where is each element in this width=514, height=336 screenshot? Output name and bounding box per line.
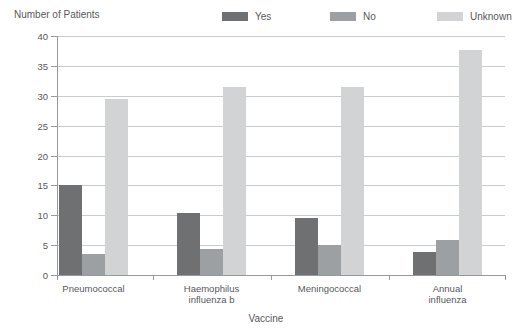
y-tick-label-10: 10 <box>26 210 48 221</box>
legend-swatch-unknown <box>437 12 463 21</box>
bar-unknown-3 <box>459 50 482 275</box>
y-tick-label-40: 40 <box>26 31 48 42</box>
legend-label-yes: Yes <box>255 11 271 22</box>
y-tick-label-20: 20 <box>26 151 48 162</box>
y-tick-label-35: 35 <box>26 61 48 72</box>
x-tick-0 <box>57 275 58 280</box>
bar-unknown-0 <box>105 99 128 275</box>
y-tick-label-30: 30 <box>26 91 48 102</box>
legend-swatch-no <box>330 12 356 21</box>
x-tick-1 <box>153 275 154 280</box>
category-label-1: Haemophilus influenza b <box>157 283 267 305</box>
legend-swatch-yes <box>222 12 248 21</box>
bar-unknown-1 <box>223 87 246 275</box>
category-label-0: Pneumococcal <box>39 283 149 294</box>
y-tick-label-15: 15 <box>26 180 48 191</box>
y-tick-label-0: 0 <box>26 270 48 281</box>
bar-yes-3 <box>413 252 436 275</box>
bar-no-1 <box>200 249 223 275</box>
category-label-2: Meningococcal <box>275 283 385 294</box>
x-tick-2 <box>271 275 272 280</box>
legend-label-unknown: Unknown <box>470 11 512 22</box>
bar-no-3 <box>436 240 459 275</box>
y-tick-label-25: 25 <box>26 121 48 132</box>
bar-no-0 <box>82 254 105 275</box>
legend-label-no: No <box>363 11 376 22</box>
gridline-40 <box>57 36 505 37</box>
category-label-3: Annual influenza <box>393 283 503 305</box>
gridline-35 <box>57 66 505 67</box>
bar-yes-2 <box>295 218 318 275</box>
x-axis-line <box>57 275 506 276</box>
gridline-30 <box>57 96 505 97</box>
bar-yes-1 <box>177 213 200 275</box>
x-axis-title: Vaccine <box>57 313 475 324</box>
x-tick-4 <box>505 275 506 280</box>
bar-no-2 <box>318 245 341 275</box>
x-tick-3 <box>389 275 390 280</box>
chart-panel: Number of Patients YesNoUnknown 05101520… <box>0 0 514 336</box>
y-axis-line <box>57 36 58 275</box>
y-axis-title: Number of Patients <box>14 9 100 20</box>
y-tick-label-5: 5 <box>26 240 48 251</box>
bar-yes-0 <box>59 185 82 275</box>
bar-unknown-2 <box>341 87 364 275</box>
